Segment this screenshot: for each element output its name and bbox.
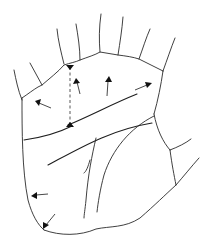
arrow-bottom-left bbox=[46, 214, 55, 225]
palm-diagram bbox=[0, 0, 209, 250]
index-finger-right-edge bbox=[163, 38, 175, 71]
ring-finger-right-edge bbox=[76, 24, 80, 60]
little-finger-right-edge bbox=[30, 63, 42, 85]
arrow-middle-mount bbox=[107, 81, 108, 96]
head-line bbox=[24, 126, 72, 140]
middle-finger-left-edge bbox=[99, 14, 101, 52]
arrow-lower-left bbox=[36, 194, 48, 195]
arrow-index-mount bbox=[77, 82, 80, 94]
thumb-outer-top bbox=[170, 139, 191, 150]
thumb-inner-edge bbox=[154, 114, 170, 150]
arrow-upper-left bbox=[39, 103, 51, 108]
little-finger-left-edge bbox=[14, 70, 22, 100]
arrowhead-icon bbox=[35, 99, 41, 106]
thumb-outer-lower bbox=[176, 158, 199, 185]
heart-line bbox=[68, 94, 137, 125]
dashed-line-top-marker bbox=[66, 65, 74, 70]
palm-top-contour bbox=[22, 52, 163, 98]
ring-finger-left-edge bbox=[57, 29, 64, 64]
life-line bbox=[97, 116, 154, 212]
arrowhead-icon bbox=[145, 82, 152, 88]
arrowhead-icon bbox=[73, 78, 80, 84]
arrow-ring-mount bbox=[135, 85, 147, 90]
arrows bbox=[31, 76, 152, 229]
middle-finger-right-edge bbox=[118, 17, 123, 55]
arrowhead-icon bbox=[31, 192, 37, 199]
palm-drawing bbox=[0, 0, 209, 250]
arrowhead-icon bbox=[105, 76, 112, 82]
thumb-base-line bbox=[170, 150, 176, 185]
palm-bottom-edge bbox=[44, 185, 176, 234]
palm-left-edge bbox=[22, 98, 44, 230]
palm-right-edge-upper bbox=[154, 71, 163, 114]
fate-line bbox=[84, 138, 96, 218]
index-finger-left-edge bbox=[139, 29, 150, 59]
